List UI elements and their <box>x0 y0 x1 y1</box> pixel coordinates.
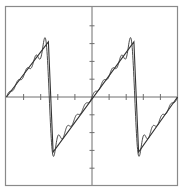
axes <box>6 7 177 185</box>
sawtooth-fourier-chart <box>0 0 181 193</box>
